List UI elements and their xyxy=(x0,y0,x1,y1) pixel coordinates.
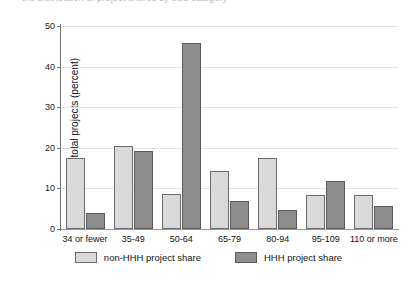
bar xyxy=(162,194,181,229)
top-caption-text: the distribution of project shares by si… xyxy=(22,0,227,3)
y-axis-tick-label: 10 xyxy=(45,183,55,193)
bar-group xyxy=(302,26,350,229)
x-axis-tick-label: 34 or fewer xyxy=(63,234,108,244)
bar xyxy=(134,151,153,229)
bar xyxy=(374,206,393,229)
y-axis-tick-label: 50 xyxy=(45,21,55,31)
y-axis-tick-label: 40 xyxy=(45,62,55,72)
bar xyxy=(258,158,277,229)
bar-group xyxy=(350,26,398,229)
bar xyxy=(326,181,345,229)
x-axis-tick-label: 110 or more xyxy=(350,234,398,244)
bar xyxy=(230,201,249,229)
bar xyxy=(306,195,325,230)
y-axis-tick-label: 20 xyxy=(45,143,55,153)
bar xyxy=(86,213,105,229)
y-axis-title-container: Share of total projects (percent) xyxy=(0,26,22,229)
y-axis-tick-label: 0 xyxy=(50,224,55,234)
x-axis-tick-label: 65-79 xyxy=(218,234,241,244)
x-axis-line xyxy=(60,229,399,230)
legend-item[interactable]: non-HHH project share xyxy=(75,252,201,263)
bar-group xyxy=(61,26,109,229)
top-caption-fragment: the distribution of project shares by si… xyxy=(0,0,417,8)
bar xyxy=(354,195,373,230)
bar-group xyxy=(205,26,253,229)
legend-item[interactable]: HHH project share xyxy=(235,252,342,263)
plot-area: 01020304050 xyxy=(61,26,398,229)
legend-label: HHH project share xyxy=(264,252,342,263)
x-axis-tick-label: 80-94 xyxy=(266,234,289,244)
chart-figure: the distribution of project shares by si… xyxy=(0,0,417,285)
bar xyxy=(66,158,85,229)
bar-group xyxy=(157,26,205,229)
bar-group xyxy=(109,26,157,229)
x-axis-tick-label: 95-109 xyxy=(312,234,340,244)
y-axis-tick-label: 30 xyxy=(45,102,55,112)
bar xyxy=(182,43,201,229)
bar-group xyxy=(254,26,302,229)
x-axis-tick-label: 50-64 xyxy=(170,234,193,244)
bar xyxy=(114,146,133,229)
y-axis-tick-mark xyxy=(57,229,61,230)
bar xyxy=(278,210,297,229)
legend-swatch xyxy=(235,252,257,263)
x-axis-tick-label: 35-49 xyxy=(122,234,145,244)
bar xyxy=(210,171,229,229)
legend-label: non-HHH project share xyxy=(104,252,201,263)
chart-legend: non-HHH project shareHHH project share xyxy=(0,252,417,263)
legend-swatch xyxy=(75,252,97,263)
